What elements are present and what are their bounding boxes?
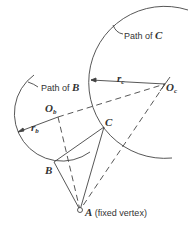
path-of-c-label: Path of C [124,30,162,41]
path-of-b-label: Path of B [41,82,79,93]
fixed-vertex-marker [78,208,83,213]
vertex-b-label: B [45,165,52,176]
rb-label: rb [31,122,39,135]
oc-label: Oc [166,82,177,95]
link-ac [80,127,104,210]
link-ab [54,162,80,210]
rc-label: rc [117,73,124,86]
linkage-diagram: Path of C Path of B rc rb Oc Ob C B A (f… [0,0,191,230]
vertex-a-label: A (fixed vertex) [85,207,147,218]
vertex-c-label: C [105,117,112,128]
dashed-ob-a [58,117,80,210]
rc-dimension [91,80,165,84]
dashed-oc-a [80,84,165,210]
ob-label: Ob [45,103,56,116]
